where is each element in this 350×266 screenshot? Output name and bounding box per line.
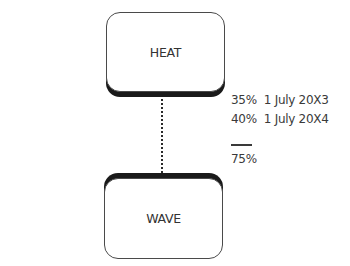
- heat-node-label: HEAT: [150, 45, 181, 60]
- ownership-connector: [161, 99, 163, 173]
- heat-node: HEAT: [106, 12, 225, 92]
- annotation-line-1: 35% 1 July 20X3: [231, 93, 328, 107]
- annotation-total: 75%: [231, 152, 257, 166]
- total-rule-divider: [231, 144, 252, 146]
- wave-node-label: WAVE: [146, 211, 181, 226]
- wave-node: WAVE: [104, 178, 223, 259]
- annotation-line-2: 40% 1 July 20X4: [231, 112, 328, 126]
